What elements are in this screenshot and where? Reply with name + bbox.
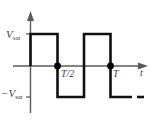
label-negative-vsat-symbol: −V	[1, 87, 15, 99]
label-positive-vsat-symbol: V	[6, 28, 13, 40]
label-positive-vsat: Vsat	[6, 29, 20, 40]
voltage-axis-arrow-icon	[27, 11, 34, 21]
label-half-period: T/2	[61, 69, 74, 79]
label-time-axis: t	[140, 68, 143, 78]
time-axis	[13, 62, 148, 69]
zero-crossing-dot-half-period	[54, 63, 61, 70]
label-full-period: T	[113, 69, 119, 79]
label-negative-vsat: −Vsat	[1, 88, 23, 99]
square-wave-figure: Vsat −Vsat T/2 T t	[0, 0, 151, 123]
label-negative-vsat-subscript: sat	[15, 93, 23, 100]
label-positive-vsat-subscript: sat	[13, 34, 21, 41]
waveform-plot-area	[0, 0, 151, 123]
